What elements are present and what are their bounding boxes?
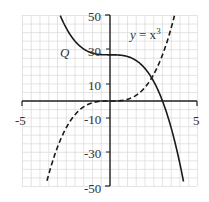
x-tick-label-neg5: -5 — [15, 113, 26, 128]
curve-q-label: Q — [60, 45, 70, 60]
y-tick-label-neg30: -30 — [84, 146, 101, 161]
curve-q — [60, 16, 183, 182]
y-tick-label-50: 50 — [88, 9, 101, 24]
y-tick-label-neg50: -50 — [84, 181, 101, 196]
x-tick-label-5: 5 — [193, 113, 200, 128]
curve-cubic-label: y = x3 — [128, 26, 161, 42]
cubic-graph: 50 30 10 -10 -30 -50 -5 5 Q y = x3 — [0, 0, 209, 202]
cubic-label-exp: 3 — [156, 26, 161, 36]
cubic-label-eq: = x — [136, 27, 157, 42]
y-tick-label-neg10: -10 — [84, 112, 101, 127]
y-tick-label-10: 10 — [88, 78, 101, 93]
y-tick-label-30: 30 — [88, 44, 101, 59]
